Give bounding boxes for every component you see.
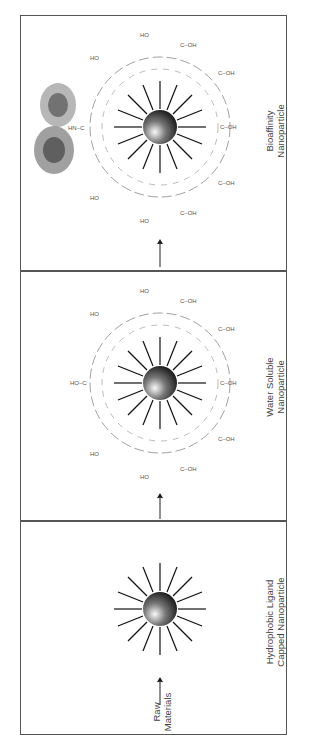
svg-text:HO: HO: [90, 451, 99, 457]
svg-text:C–OH: C–OH: [180, 210, 197, 216]
water-soluble-nanoparticle-diagram: C–OHC–OHC–OH C–OHC–OH HOHO HO–CHOHO: [20, 271, 287, 521]
svg-text:C–OH: C–OH: [220, 124, 237, 130]
nanoparticle-core: [143, 592, 177, 626]
label-bioaffinity: Bioaffinity Nanoparticle: [264, 91, 286, 171]
svg-text:HO: HO: [140, 32, 149, 38]
panel-water-soluble: C–OHC–OHC–OH C–OHC–OH HOHO HO–CHOHO Wate…: [20, 271, 287, 521]
svg-text:C–OH: C–OH: [218, 180, 235, 186]
svg-text:C–OH: C–OH: [218, 326, 235, 332]
svg-text:HO: HO: [90, 195, 99, 201]
nanoparticle-core: [143, 110, 177, 144]
svg-text:C–OH: C–OH: [218, 436, 235, 442]
amide-link: HN–C: [68, 125, 85, 131]
label-hydrophobic: Hydrophobic Ligand Capped Nanoparticle: [264, 567, 286, 677]
svg-text:HO: HO: [90, 55, 99, 61]
svg-text:C–OH: C–OH: [180, 466, 197, 472]
panel-hydrophobic: Hydrophobic Ligand Capped Nanoparticle R…: [20, 521, 287, 735]
svg-text:HO: HO: [140, 288, 149, 294]
svg-text:HO: HO: [140, 474, 149, 480]
bioaffinity-nanoparticle-diagram: C–OHC–OHC–OH C–OHC–OH HOHO HOHO HN–C: [20, 15, 287, 271]
svg-text:C–OH: C–OH: [180, 298, 197, 304]
label-water-soluble: Water Soluble Nanoparticle: [264, 347, 286, 427]
svg-text:HO–C: HO–C: [70, 380, 87, 386]
panel-bioaffinity: C–OHC–OHC–OH C–OHC–OH HOHO HOHO HN–C Bio…: [20, 15, 287, 271]
svg-text:HO: HO: [140, 218, 149, 224]
svg-text:C–OH: C–OH: [220, 380, 237, 386]
svg-text:C–OH: C–OH: [180, 42, 197, 48]
nanoparticle-core: [143, 366, 177, 400]
label-raw-materials: Raw Materials: [151, 687, 173, 737]
svg-text:C–OH: C–OH: [218, 70, 235, 76]
svg-text:HO: HO: [90, 311, 99, 317]
